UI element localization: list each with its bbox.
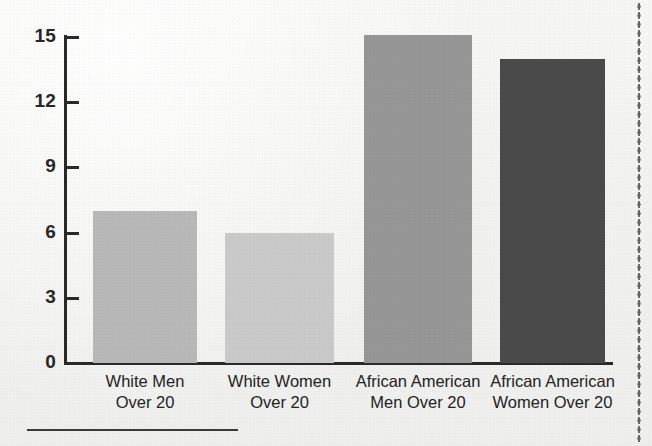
bar-1 <box>93 211 197 363</box>
y-axis-tick-label-15: 15 <box>0 25 56 47</box>
bars-group <box>65 37 612 363</box>
y-axis-tick-label-9: 9 <box>0 155 56 177</box>
y-axis-tick-label-12: 12 <box>0 90 56 112</box>
bar-2 <box>225 233 334 363</box>
y-axis-tick-label-0: 0 <box>0 351 56 373</box>
dotted-margin-line <box>637 2 641 444</box>
y-axis-tick-label-3: 3 <box>0 286 56 308</box>
category-label-line2: Women Over 20 <box>433 392 652 413</box>
bar-3 <box>364 35 472 363</box>
category-label-line1: African American <box>490 372 615 390</box>
y-axis-tick-label-6: 6 <box>0 221 56 243</box>
chart-page: 15129630 White MenOver 20White WomenOver… <box>0 0 652 446</box>
horizontal-rule <box>27 429 238 431</box>
bar-chart: 15129630 White MenOver 20White WomenOver… <box>0 0 652 446</box>
category-label-4: African AmericanWomen Over 20 <box>433 371 652 413</box>
bar-4 <box>500 59 605 363</box>
